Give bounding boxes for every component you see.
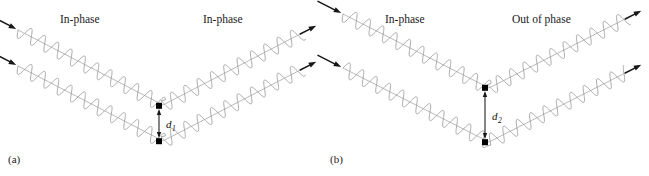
panel-label-b: (b) — [330, 153, 343, 166]
outgoing-arrowhead-lower-panel-a — [308, 62, 316, 68]
reflection-point-lower-panel-a — [156, 138, 162, 144]
incoming-phase-label-panel-a: In-phase — [60, 13, 100, 26]
reflection-point-upper-panel-a — [156, 103, 162, 109]
outgoing-phase-label-panel-a: In-phase — [203, 13, 243, 26]
reflection-point-upper-panel-b — [482, 85, 488, 91]
spacing-arrowhead-top-panel-b — [483, 91, 487, 97]
panel-a-group: d1In-phaseIn-phase(a) — [0, 13, 316, 166]
outgoing-arrowhead-upper-panel-b — [633, 11, 641, 17]
incoming-arrowhead-upper-panel-b — [333, 7, 341, 13]
panel-label-a: (a) — [8, 153, 21, 166]
outgoing-arrowhead-lower-panel-b — [633, 65, 641, 71]
incoming-arrowhead-lower-panel-a — [8, 59, 16, 65]
spacing-arrowhead-top-panel-a — [157, 109, 161, 115]
spacing-label-panel-b: d2 — [492, 110, 502, 125]
spacing-arrowhead-bottom-panel-a — [157, 132, 161, 138]
incoming-arrowhead-upper-panel-a — [8, 23, 16, 29]
beam-axis-upper-panel-b — [343, 14, 627, 88]
panel-b-group: d2In-phaseOut of phase(b) — [318, 1, 641, 166]
reflection-point-lower-panel-b — [482, 139, 488, 145]
bragg-diffraction-figure: d1In-phaseIn-phase(a) d2In-phaseOut of p… — [0, 0, 649, 176]
incoming-arrowhead-lower-panel-b — [333, 61, 341, 67]
wave-upper-panel-a — [17, 28, 305, 109]
outgoing-phase-label-panel-b: Out of phase — [512, 13, 571, 26]
outgoing-arrowhead-upper-panel-a — [308, 26, 316, 32]
incoming-phase-label-panel-b: In-phase — [385, 13, 425, 26]
